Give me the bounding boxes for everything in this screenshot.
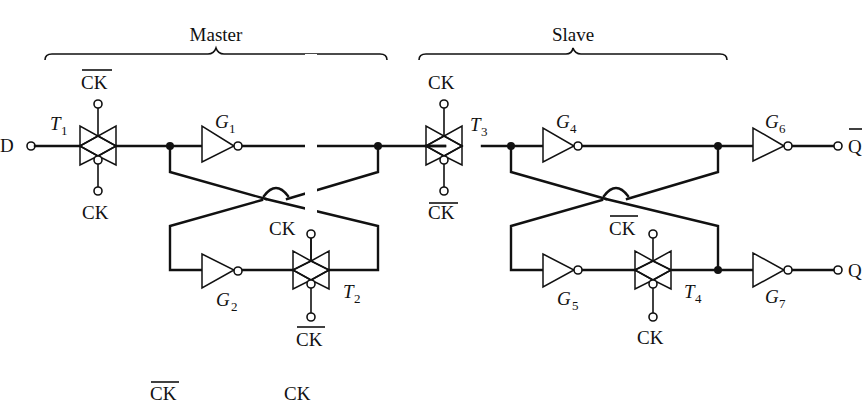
junction-dot: [166, 142, 174, 150]
master-label: Master: [190, 24, 243, 45]
g4-label: G: [556, 111, 570, 132]
t2-bottom-clock-label: CK: [296, 329, 323, 350]
g6-subscript: 6: [779, 121, 786, 136]
t3-top-clock-label: CK: [428, 72, 455, 93]
t3-subscript: 3: [481, 124, 488, 139]
t3-inverting-bubble: [440, 156, 448, 164]
t2-bottom-terminal: [307, 313, 315, 321]
t4-top-clock-label: CK: [609, 218, 636, 239]
g1-subscript: 1: [229, 121, 236, 136]
master-slave-flip-flop-diagram: Master Slave D CK CK T 1 G: [0, 0, 865, 410]
g4-subscript: 4: [570, 121, 577, 136]
output-q-terminal: [834, 266, 842, 274]
junction-dot: [507, 142, 515, 150]
g1-label: G: [215, 111, 229, 132]
output-qbar-label: Q: [848, 136, 862, 157]
junction-dot: [374, 142, 382, 150]
slave-label: Slave: [552, 24, 594, 45]
slave-right-loop: [606, 146, 718, 270]
t2-inverting-bubble: [307, 280, 315, 288]
t3-bottom-clock-label: CK: [428, 202, 455, 223]
inverter-g6: [753, 128, 792, 161]
transmission-gate-t1: [80, 100, 116, 195]
master-crossover-hop: [264, 188, 288, 196]
transmission-gate-t3: [426, 100, 462, 195]
inverter-g2: [202, 254, 242, 288]
slave-crossover-hop: [604, 188, 628, 196]
junction-dot: [714, 142, 722, 150]
t1-bottom-clock-label: CK: [82, 202, 109, 223]
junction-dot: [714, 266, 722, 274]
t2-top-clock-label: CK: [269, 218, 296, 239]
t1-subscript: 1: [61, 123, 68, 138]
t4-bottom-terminal: [649, 313, 657, 321]
g7-label: G: [765, 286, 779, 307]
t4-top-terminal: [649, 230, 657, 238]
inverter-g5: [543, 254, 582, 287]
g2-subscript: 2: [231, 299, 238, 314]
slave-brace: [419, 48, 727, 60]
master-right-loop: [266, 146, 378, 270]
transmission-gate-t4: [635, 230, 671, 321]
t2-subscript: 2: [354, 291, 361, 306]
t3-bottom-terminal: [440, 187, 448, 195]
t4-inverting-bubble: [649, 280, 657, 288]
t4-subscript: 4: [695, 291, 702, 306]
g7-subscript: 7: [779, 296, 786, 311]
t1-bottom-terminal: [94, 187, 102, 195]
input-d-label: D: [0, 135, 14, 156]
t4-bottom-clock-label: CK: [637, 327, 664, 348]
master-left-loop: [170, 146, 266, 270]
t2-top-terminal: [307, 230, 315, 238]
master-brace: [45, 48, 387, 60]
output-qbar-terminal: [834, 142, 842, 150]
legend-ck-bar-label: CK: [150, 383, 177, 404]
t1-top-clock-label: CK: [81, 72, 108, 93]
output-q-label: Q: [848, 260, 862, 281]
g6-label: G: [765, 111, 779, 132]
g2-label: G: [216, 289, 230, 310]
t1-top-terminal: [94, 100, 102, 108]
slave-left-loop: [511, 146, 606, 270]
g5-subscript: 5: [572, 298, 579, 313]
t3-top-terminal: [440, 100, 448, 108]
legend-ck-label: CK: [284, 383, 311, 404]
inverter-g7: [753, 253, 792, 287]
t1-inverting-bubble: [94, 156, 102, 164]
g5-label: G: [557, 288, 571, 309]
